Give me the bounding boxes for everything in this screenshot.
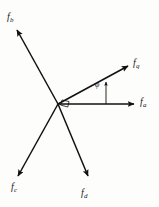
vector-arrow-fc	[18, 104, 58, 176]
vector-label-sub-fa: a	[143, 101, 147, 109]
vector-label-sub-fq: q	[136, 62, 140, 70]
vector-label-sub-fd: d	[84, 192, 88, 200]
vector-label-fd: fd	[81, 188, 87, 198]
vector-arrow-fq	[58, 66, 128, 104]
vector-arrow-fd	[58, 104, 88, 176]
vector-arrows-group	[17, 30, 134, 176]
diagram-canvas	[0, 0, 159, 207]
vector-label-fa: fa	[140, 97, 146, 107]
vector-label-fc: fc	[11, 182, 17, 192]
vector-label-fq: fq	[133, 58, 139, 68]
angle-label-phi: φ	[95, 81, 99, 89]
vector-diagram-figure: fbfqfafcfd φ	[0, 0, 159, 207]
vector-label-fb: fb	[7, 12, 13, 22]
vector-arrow-fb	[17, 30, 58, 104]
vector-label-sub-fc: c	[14, 186, 17, 194]
vector-label-sub-fb: b	[10, 16, 14, 24]
